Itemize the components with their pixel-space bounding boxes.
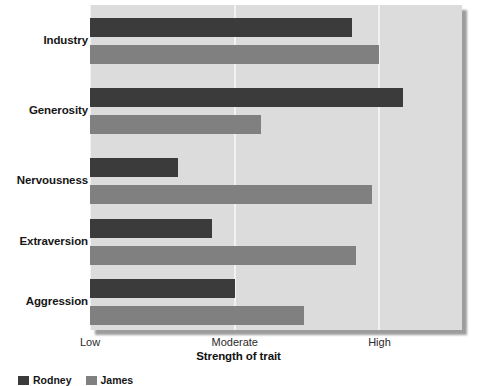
legend-swatch-james <box>86 376 97 385</box>
x-tick-high: High <box>368 336 391 348</box>
y-label-generosity: Generosity <box>0 104 88 116</box>
legend-label-james: James <box>101 374 134 386</box>
y-axis-category-labels: IndustryGenerosityNervousnessExtraversio… <box>0 0 88 335</box>
bar-industry-james <box>90 45 379 64</box>
legend-label-rodney: Rodney <box>33 374 72 386</box>
bar-nervousness-james <box>90 185 372 204</box>
y-label-nervousness: Nervousness <box>0 174 88 186</box>
x-axis-title: Strength of trait <box>0 350 477 362</box>
legend-swatch-rodney <box>18 376 29 385</box>
y-label-extraversion: Extraversion <box>0 235 88 247</box>
bar-nervousness-rodney <box>90 158 178 177</box>
bar-extraversion-rodney <box>90 219 212 238</box>
plot-inner <box>90 5 462 330</box>
legend-item-rodney: Rodney <box>18 374 72 386</box>
legend-item-james: James <box>86 374 134 386</box>
x-tick-moderate: Moderate <box>211 336 257 348</box>
bar-generosity-james <box>90 115 261 134</box>
bar-extraversion-james <box>90 246 356 265</box>
chart-legend: RodneyJames <box>18 374 133 386</box>
bar-industry-rodney <box>90 18 352 37</box>
bar-aggression-rodney <box>90 279 235 298</box>
y-label-industry: Industry <box>0 34 88 46</box>
bar-aggression-james <box>90 306 304 325</box>
y-label-aggression: Aggression <box>0 295 88 307</box>
x-tick-low: Low <box>80 336 100 348</box>
plot-area <box>90 5 462 330</box>
bar-generosity-rodney <box>90 88 403 107</box>
